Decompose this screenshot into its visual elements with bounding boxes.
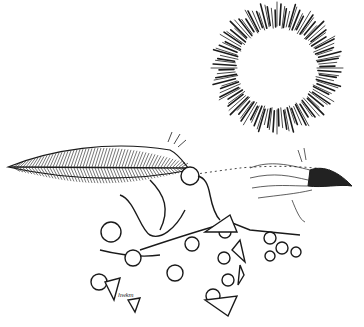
ink-drawing — [0, 0, 364, 327]
artwork-canvas: hwkm — [0, 0, 364, 327]
artist-signature: hwkm — [118, 291, 133, 299]
feather-icon — [8, 132, 190, 183]
bird-head-icon — [250, 148, 352, 222]
sun-icon — [211, 2, 343, 134]
